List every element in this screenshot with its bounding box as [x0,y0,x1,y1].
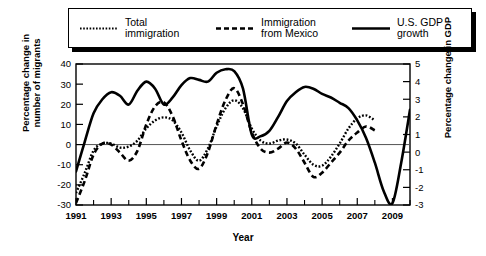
x-axis-tick-label: 2005 [312,210,334,221]
x-axis-tick-label: 2001 [241,210,263,221]
y-axis-left-tick-label: -30 [57,199,71,210]
y-axis-right-tick-label: 2 [415,111,420,122]
x-axis-tick-label: 1995 [136,210,158,221]
y-axis-left-tick-label: 40 [60,58,71,69]
y-axis-left-tick-label: 0 [66,139,71,150]
y-axis-right-tick-label: 0 [415,147,420,158]
y-axis-right-tick-label: -3 [415,199,423,210]
chart-figure: Total immigration Immigration from Mexic… [0,0,486,256]
y-axis-left-tick-label: 20 [60,99,71,110]
y-axis-left-tick-label: -10 [57,159,71,170]
x-axis-tick-label: 1991 [65,210,87,221]
y-axis-right-tick-label: -2 [415,182,423,193]
y-axis-left-tick-label: 30 [60,79,71,90]
x-axis-tick-label: 1993 [101,210,122,221]
y-axis-left-tick-label: -20 [57,179,71,190]
x-axis-tick-label: 1999 [206,210,227,221]
y-axis-right-tick-label: 1 [415,129,420,140]
y-axis-right-tick-label: 5 [415,58,420,69]
y-axis-right-tick-label: -1 [415,164,423,175]
y-axis-right-tick-label: 3 [415,94,420,105]
y-axis-left-tick-label: 10 [60,119,71,130]
x-axis-tick-label: 2007 [347,210,368,221]
x-axis-tick-label: 2009 [382,210,403,221]
y-axis-right-tick-label: 4 [415,76,420,87]
plot-area: -30-20-10010203040-3-2-10123451991199319… [0,0,486,256]
x-axis-tick-label: 1997 [171,210,192,221]
x-axis-tick-label: 2003 [276,210,297,221]
